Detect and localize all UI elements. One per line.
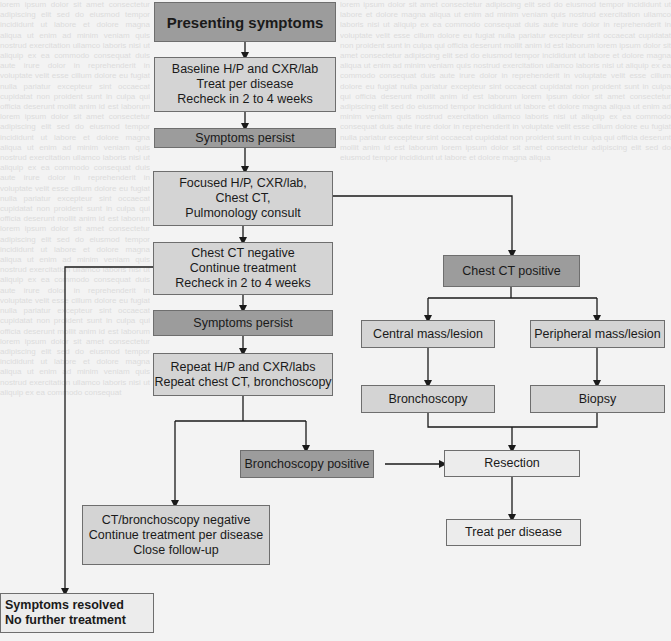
node-resection: Resection <box>444 450 580 477</box>
node-symptoms-persist-1: Symptoms persist <box>154 128 336 148</box>
node-focused-workup: Focused H/P, CXR/lab, Chest CT, Pulmonol… <box>153 171 333 226</box>
node-presenting-symptoms: Presenting symptoms <box>154 2 336 42</box>
node-peripheral-mass: Peripheral mass/lesion <box>530 320 665 348</box>
node-bronchoscopy-positive: Bronchoscopy positive <box>240 450 374 478</box>
node-ct-bronchoscopy-negative: CT/bronchoscopy negative Continue treatm… <box>82 505 270 565</box>
node-bronchoscopy: Bronchoscopy <box>361 385 495 413</box>
background-text-right: lorem ipsum dolor sit amet consectetur a… <box>340 0 671 250</box>
node-central-mass: Central mass/lesion <box>361 320 495 348</box>
node-treat-per-disease: Treat per disease <box>446 519 581 546</box>
node-chest-ct-negative: Chest CT negative Continue treatment Rec… <box>153 242 333 295</box>
node-symptoms-persist-2: Symptoms persist <box>153 310 333 336</box>
background-text-left: lorem ipsum dolor sit amet consectetur a… <box>0 0 150 590</box>
node-biopsy: Biopsy <box>530 385 665 413</box>
node-repeat-workup: Repeat H/P and CXR/labs Repeat chest CT,… <box>153 353 333 396</box>
node-baseline-workup: Baseline H/P and CXR/lab Treat per disea… <box>154 57 336 112</box>
node-symptoms-resolved: Symptoms resolved No further treatment <box>0 593 154 633</box>
node-chest-ct-positive: Chest CT positive <box>443 255 580 287</box>
